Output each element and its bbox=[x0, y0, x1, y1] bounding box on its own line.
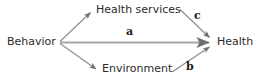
edge-behavior-to-environment bbox=[60, 44, 96, 70]
edge-behavior-to-health-services bbox=[60, 13, 91, 42]
node-behavior: Behavior bbox=[7, 36, 56, 48]
node-health-services: Health services bbox=[96, 4, 181, 16]
path-label-a: a bbox=[126, 26, 133, 37]
path-label-b: b bbox=[186, 61, 194, 72]
path-diagram: Behavior Health services Environment Hea… bbox=[0, 0, 263, 83]
node-environment: Environment bbox=[102, 63, 172, 75]
path-label-c: c bbox=[194, 10, 201, 21]
node-health: Health bbox=[217, 36, 253, 48]
